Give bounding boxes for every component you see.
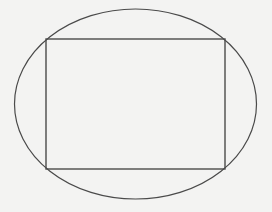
inscribed-rectangle-diagram <box>0 0 272 212</box>
background <box>0 0 272 212</box>
